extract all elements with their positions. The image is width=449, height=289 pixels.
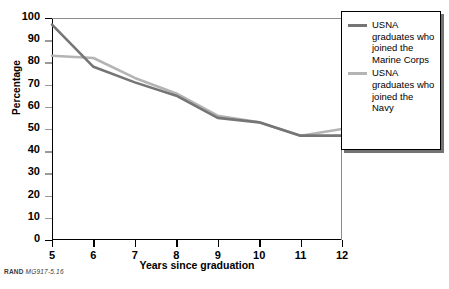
y-tick-30: 30 [45,173,52,174]
series-line [52,25,342,136]
footer-code: MG917-5.16 [26,268,64,275]
y-tick-label-90: 90 [10,32,40,44]
y-tick-label-0: 0 [10,232,40,244]
y-tick-10: 10 [45,218,52,219]
y-tick-0: 0 [45,240,52,241]
y-tick-80: 80 [45,62,52,63]
y-tick-70: 70 [45,85,52,86]
x-tick-10: 10 [259,240,260,247]
x-tick-5: 5 [52,240,53,247]
x-tick-12: 12 [342,240,343,247]
y-tick-label-70: 70 [10,77,40,89]
figure-source-note: RAND MG917-5.16 [4,268,64,275]
y-tick-label-10: 10 [10,210,40,222]
x-axis-title: Years since graduation [52,259,342,271]
y-tick-label-60: 60 [10,99,40,111]
legend-swatch-marine-corps [348,24,367,27]
y-tick-label-20: 20 [10,188,40,200]
x-tick-6: 6 [93,240,94,247]
legend-swatch-navy [348,72,367,75]
chart-figure: Percentage 0102030405060708090100 567891… [0,0,449,289]
legend-item-marine-corps: USNA graduates who joined the Marine Cor… [348,19,435,65]
y-tick-50: 50 [45,129,52,130]
y-tick-label-30: 30 [10,165,40,177]
y-tick-label-40: 40 [10,143,40,155]
legend-label-marine-corps: USNA graduates who joined the Marine Cor… [372,19,435,65]
chart-legend: USNA graduates who joined the Marine Cor… [341,11,441,150]
y-tick-40: 40 [45,151,52,152]
x-tick-11: 11 [301,240,302,247]
x-tick-9: 9 [218,240,219,247]
y-tick-90: 90 [45,40,52,41]
x-tick-7: 7 [135,240,136,247]
legend-label-navy: USNA graduates who joined the Navy [372,67,435,113]
plot-area: 0102030405060708090100 56789101112 [52,18,342,240]
y-tick-label-80: 80 [10,54,40,66]
y-tick-60: 60 [45,107,52,108]
series-lines [52,18,342,240]
y-tick-label-50: 50 [10,121,40,133]
legend-item-navy: USNA graduates who joined the Navy [348,67,435,113]
footer-prefix: RAND [4,268,24,275]
y-tick-label-100: 100 [10,10,40,22]
x-tick-8: 8 [176,240,177,247]
y-tick-20: 20 [45,196,52,197]
y-tick-100: 100 [45,18,52,19]
